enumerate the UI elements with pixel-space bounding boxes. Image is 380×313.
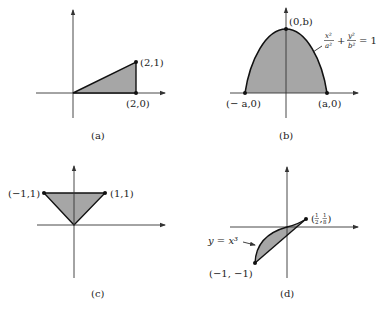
point-0-b (284, 27, 288, 31)
svg-text:2: 2 (315, 219, 319, 225)
label-neg1-1: (−1,1) (8, 188, 40, 199)
panel-b: (0,b) (− a,0) (a,0) x² a² + y² b² = 1 (b… (226, 8, 377, 141)
label-a-0: (a,0) (318, 98, 341, 109)
point-a-0 (325, 91, 329, 95)
shaded-triangle (44, 193, 105, 225)
ellipse-equation: x² a² + y² b² = 1 (324, 32, 377, 50)
svg-text:= 1: = 1 (359, 35, 377, 46)
label-half-eighth: ( 1 2 , 1 8 ) (311, 212, 332, 225)
label-1-1: (1,1) (110, 188, 134, 199)
point-neg1-neg1 (253, 261, 257, 265)
svg-text:+: + (337, 35, 345, 46)
svg-text:): ) (328, 213, 332, 224)
panel-d: ( 1 2 , 1 8 ) y = x³ (−1, −1) (d) (207, 167, 358, 299)
caption-d: (d) (280, 288, 294, 299)
curve-pointer (243, 242, 255, 245)
point-2-0 (134, 91, 138, 95)
label-0-b: (0,b) (289, 16, 313, 27)
label-y-equals-x-cubed: y = x³ (207, 235, 238, 246)
panel-c: (−1,1) (1,1) (c) (8, 166, 165, 299)
point-2-1 (134, 60, 138, 64)
point-half-eighth (304, 217, 308, 221)
point-neg-a-0 (243, 91, 247, 95)
label-neg-a-0: (− a,0) (226, 98, 261, 109)
svg-text:b²: b² (348, 42, 355, 50)
point-1-1 (103, 191, 107, 195)
label-2-1: (2,1) (140, 57, 164, 68)
figure-canvas: (2,1) (2,0) (a) (0,b) (− a,0) (a,0) x² a… (0, 0, 380, 313)
svg-text:a²: a² (325, 42, 332, 50)
label-neg1-neg1: (−1, −1) (209, 268, 253, 279)
curve-pointer (313, 46, 322, 52)
svg-text:8: 8 (323, 219, 327, 225)
caption-a: (a) (91, 130, 105, 141)
shaded-triangle (73, 62, 136, 93)
panel-a: (2,1) (2,0) (a) (36, 10, 165, 141)
caption-c: (c) (91, 288, 105, 299)
point-neg1-1 (42, 191, 46, 195)
label-2-0: (2,0) (126, 98, 150, 109)
svg-text:1: 1 (315, 212, 319, 218)
svg-text:y²: y² (347, 32, 355, 40)
caption-b: (b) (279, 130, 293, 141)
svg-text:x²: x² (325, 32, 332, 40)
svg-text:1: 1 (323, 212, 327, 218)
